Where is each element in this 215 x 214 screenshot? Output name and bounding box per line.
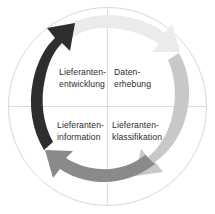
arrow-left-upward <box>31 23 75 150</box>
arrow-bottom-leftward <box>45 150 155 182</box>
cycle-diagram: Lieferanten- entwicklung Daten- erhebung… <box>0 0 215 214</box>
cycle-diagram-canvas <box>0 0 215 214</box>
